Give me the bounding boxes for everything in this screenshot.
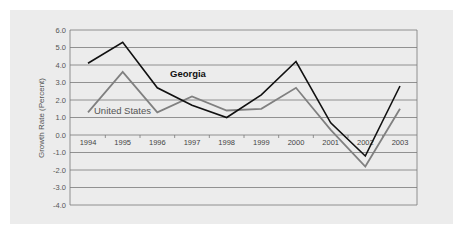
y-tick-label: -4.0 xyxy=(53,201,66,210)
x-tick-label: 1997 xyxy=(184,138,201,147)
x-tick-label: 1996 xyxy=(149,138,166,147)
x-axis: 1994199519961997199819992000200120022003 xyxy=(80,135,409,147)
y-tick-label: 6.0 xyxy=(56,26,66,35)
x-tick-label: 1995 xyxy=(114,138,131,147)
y-tick-label: 4.0 xyxy=(56,61,66,70)
x-tick-label: 2000 xyxy=(288,138,305,147)
series-label-georgia: Georgia xyxy=(170,68,207,79)
y-axis-ticks: 6.05.04.03.02.01.00.0-1.0-2.0-3.0-4.0 xyxy=(53,26,66,210)
x-tick-label: 1994 xyxy=(80,138,97,147)
y-tick-label: 5.0 xyxy=(56,43,66,52)
x-tick-label: 1999 xyxy=(253,138,270,147)
x-tick-label: 2001 xyxy=(322,138,339,147)
x-tick-label: 2003 xyxy=(392,138,409,147)
y-tick-label: -1.0 xyxy=(53,148,66,157)
y-tick-label: -3.0 xyxy=(53,183,66,192)
line-chart: 6.05.04.03.02.01.00.0-1.0-2.0-3.0-4.0 19… xyxy=(0,0,462,233)
series-line-georgia xyxy=(88,42,400,156)
y-tick-label: -2.0 xyxy=(53,166,66,175)
x-tick-label: 1998 xyxy=(218,138,235,147)
series-label-united-states: United States xyxy=(94,105,151,116)
y-tick-label: 3.0 xyxy=(56,78,66,87)
grid-lines xyxy=(70,30,417,205)
y-tick-label: 2.0 xyxy=(56,96,66,105)
y-axis-label: Growth Rate (Percent) xyxy=(37,78,46,158)
y-tick-label: 1.0 xyxy=(56,113,66,122)
y-tick-label: 0.0 xyxy=(56,131,66,140)
